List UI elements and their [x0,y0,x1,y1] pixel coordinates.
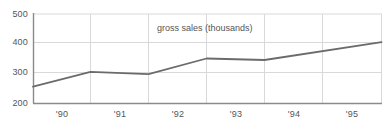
chart-plot-area [0,0,391,125]
y-tick-label-200: 200 [2,99,28,108]
x-tick-label-94: '94 [274,110,314,119]
y-tick-label-500: 500 [2,10,28,19]
x-tick-label-90: '90 [42,110,82,119]
y-tick-label-300: 300 [2,68,28,77]
x-tick-label-91: '91 [100,110,140,119]
data-line-gross-sales [33,42,382,86]
chart-annotation-label: gross sales (thousands) [157,23,253,33]
y-tick-label-400: 400 [2,38,28,47]
x-tick-label-93: '93 [216,110,256,119]
x-tick-label-95: '95 [332,110,372,119]
line-chart: 500 400 300 200 '90 '91 '92 '93 '94 '95 … [0,0,391,125]
x-tick-label-92: '92 [158,110,198,119]
